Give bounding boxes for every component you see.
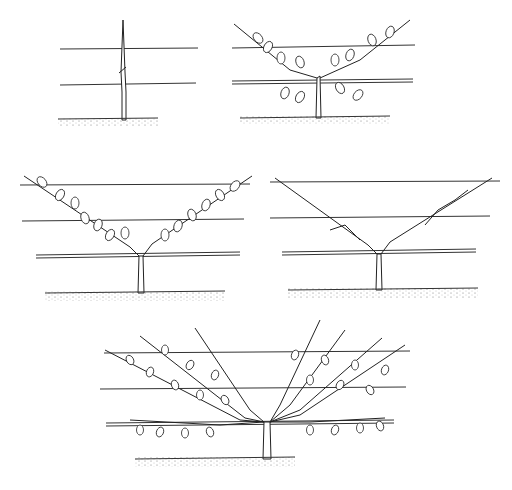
wire-upper: [60, 48, 198, 49]
trunk: [263, 422, 271, 459]
panel-stage-5: [100, 320, 410, 467]
leaves: [251, 25, 396, 104]
wire-middle: [100, 387, 406, 389]
panel-stage-3: [20, 175, 252, 301]
wire-lower: [282, 249, 476, 252]
wire-top: [104, 351, 410, 353]
wire-lower: [60, 83, 196, 85]
right-spur: [425, 190, 468, 225]
left-arm: [275, 178, 377, 254]
wire-lower: [232, 79, 413, 81]
panel-stage-1: [58, 20, 198, 126]
left-arm: [234, 24, 317, 78]
fan-training-illustration: [0, 0, 512, 490]
wire-top: [20, 184, 250, 185]
wire-lower-2: [232, 82, 413, 84]
left-spur: [330, 225, 360, 240]
trunk: [376, 254, 382, 290]
wire-middle: [22, 219, 244, 221]
panel-stage-4: [270, 178, 500, 298]
trunk: [316, 76, 321, 118]
trunk: [138, 256, 144, 293]
right-arm: [320, 20, 410, 78]
panel-stage-2: [232, 20, 415, 124]
wire-top: [270, 181, 500, 182]
wire-middle: [270, 216, 490, 218]
